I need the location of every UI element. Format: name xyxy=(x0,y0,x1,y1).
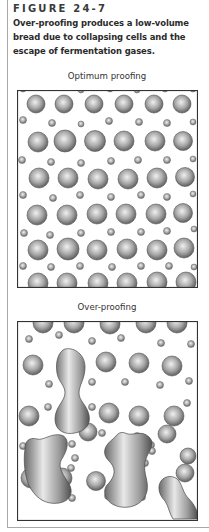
small-gas-cell xyxy=(190,156,196,162)
large-gas-cell xyxy=(99,403,119,423)
large-gas-cell xyxy=(117,239,137,259)
small-gas-cell xyxy=(49,120,56,127)
small-gas-cell xyxy=(46,381,53,388)
small-gas-cell xyxy=(108,229,115,236)
small-gas-cell xyxy=(191,264,197,270)
figure-label: FIGURE 24-7 xyxy=(13,3,107,14)
over-proofing-title: Over-proofing xyxy=(17,302,197,312)
small-gas-cell xyxy=(190,119,196,125)
large-gas-cell xyxy=(174,238,194,258)
small-gas-cell xyxy=(164,120,171,127)
small-gas-cell xyxy=(190,191,196,197)
small-gas-cell xyxy=(78,121,84,127)
small-gas-cell xyxy=(47,232,54,239)
large-gas-cell xyxy=(27,205,47,225)
small-gas-cell xyxy=(108,194,115,201)
small-gas-cell xyxy=(48,159,55,166)
large-gas-cell xyxy=(87,240,107,260)
large-gas-cell xyxy=(162,356,182,376)
small-gas-cell xyxy=(69,441,76,448)
small-gas-cell xyxy=(164,157,171,164)
large-gas-cell xyxy=(96,352,116,372)
large-gas-cell xyxy=(164,406,184,426)
large-gas-cell xyxy=(147,168,167,188)
optimum-proofing-title: Optimum proofing xyxy=(17,71,197,81)
large-gas-cell xyxy=(55,95,73,113)
large-gas-cell xyxy=(27,95,45,113)
small-gas-cell xyxy=(21,230,28,237)
small-gas-cell xyxy=(77,263,84,270)
large-gas-cell xyxy=(57,238,79,260)
small-gas-cell xyxy=(99,430,106,437)
large-gas-cell xyxy=(57,205,77,225)
small-gas-cell xyxy=(20,263,27,270)
large-gas-cell xyxy=(87,472,106,491)
optimum-proofing-illustration xyxy=(17,90,198,288)
small-gas-cell xyxy=(77,192,84,199)
large-gas-cell xyxy=(176,464,194,482)
large-gas-cell xyxy=(129,406,149,426)
large-gas-cell xyxy=(146,204,166,224)
small-gas-cell xyxy=(138,229,145,236)
large-gas-cell xyxy=(29,168,49,188)
large-gas-cell xyxy=(180,448,196,464)
small-gas-cell xyxy=(138,192,145,199)
large-gas-cell xyxy=(85,131,106,152)
large-gas-cell xyxy=(88,169,108,189)
small-gas-cell xyxy=(56,332,63,339)
small-gas-cell xyxy=(158,340,165,347)
large-gas-cell xyxy=(23,355,43,375)
large-gas-cell xyxy=(158,425,176,443)
small-gas-cell xyxy=(106,118,113,125)
large-gas-cell xyxy=(116,204,136,224)
optimum-proofing-cells-svg xyxy=(17,90,198,288)
over-proofing-cells-svg xyxy=(17,321,198,521)
caption-line: Over-proofing produces a low-volume xyxy=(13,16,205,30)
small-gas-cell xyxy=(78,160,85,167)
over-proofing-illustration xyxy=(17,321,198,521)
large-gas-cell xyxy=(28,240,48,260)
large-gas-cell xyxy=(28,132,48,152)
small-gas-cell xyxy=(186,378,193,385)
small-gas-cell xyxy=(164,194,171,201)
small-gas-cell xyxy=(184,400,191,407)
small-gas-cell xyxy=(26,336,33,343)
small-gas-cell xyxy=(188,341,195,348)
small-gas-cell xyxy=(20,117,27,124)
large-gas-cell xyxy=(115,95,133,113)
figure-caption: Over-proofing produces a low-volume brea… xyxy=(13,16,205,58)
small-gas-cell xyxy=(45,404,52,411)
large-gas-cell xyxy=(54,130,76,152)
small-gas-cell xyxy=(135,157,142,164)
large-gas-cell xyxy=(19,406,39,426)
small-gas-cell xyxy=(89,338,96,345)
small-gas-cell xyxy=(108,158,115,165)
small-gas-cell xyxy=(89,379,96,386)
large-gas-cell xyxy=(174,132,193,151)
small-gas-cell xyxy=(166,263,173,270)
small-gas-cell xyxy=(19,157,26,164)
small-gas-cell xyxy=(48,264,55,271)
large-gas-cell xyxy=(174,204,193,223)
small-gas-cell xyxy=(72,455,79,462)
small-gas-cell xyxy=(89,404,96,411)
small-gas-cell xyxy=(191,226,197,232)
large-gas-cell xyxy=(58,168,78,188)
large-gas-cell xyxy=(147,240,167,260)
large-gas-cell xyxy=(87,204,107,224)
large-gas-cell xyxy=(114,131,134,151)
large-gas-cell xyxy=(173,95,191,113)
small-gas-cell xyxy=(122,379,129,386)
small-gas-cell xyxy=(109,264,116,271)
small-gas-cell xyxy=(164,228,171,235)
large-gas-cell xyxy=(145,95,163,113)
small-gas-cell xyxy=(138,263,145,270)
large-gas-cell xyxy=(129,353,149,373)
small-gas-cell xyxy=(157,382,164,389)
large-gas-cell xyxy=(85,95,103,113)
caption-line: bread due to collapsing cells and the xyxy=(13,30,205,44)
small-gas-cell xyxy=(20,192,27,199)
large-gas-cell xyxy=(176,168,195,187)
small-gas-cell xyxy=(50,195,57,202)
large-gas-cell xyxy=(145,131,165,151)
